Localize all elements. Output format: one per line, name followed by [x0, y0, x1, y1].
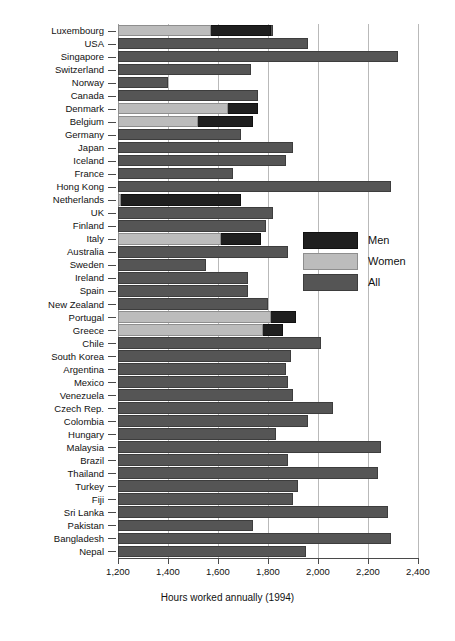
bar-row: [118, 402, 418, 415]
bar-all: [118, 337, 321, 349]
bar-all: [118, 77, 168, 89]
category-tick: [108, 538, 116, 539]
category-axis-ticks: [0, 24, 118, 558]
bar-row: [118, 193, 418, 206]
category-tick: [108, 304, 116, 305]
category-tick: [108, 226, 116, 227]
bar-row: [118, 206, 418, 219]
bar-row: [118, 337, 418, 350]
bar-row: [118, 519, 418, 532]
bar-all: [118, 64, 251, 76]
category-tick: [108, 395, 116, 396]
bar-row: [118, 24, 418, 37]
bar-all: [118, 402, 333, 414]
value-tick-label: 1,800: [248, 566, 288, 577]
value-tick: [368, 558, 369, 564]
bar-all: [118, 220, 266, 232]
bar-row: [118, 76, 418, 89]
bar-row: [118, 441, 418, 454]
legend-item-all: All: [303, 273, 443, 294]
category-tick: [108, 447, 116, 448]
category-tick: [108, 239, 116, 240]
category-tick: [108, 200, 116, 201]
bar-row: [118, 180, 418, 193]
category-tick: [108, 278, 116, 279]
bar-all: [118, 298, 268, 310]
value-tick-label: 2,000: [298, 566, 338, 577]
bar-all: [118, 259, 206, 271]
bar-row: [118, 467, 418, 480]
category-tick: [108, 369, 116, 370]
category-tick: [108, 317, 116, 318]
category-tick: [108, 70, 116, 71]
category-tick: [108, 525, 116, 526]
value-tick-label: 2,200: [348, 566, 388, 577]
bar-women: [118, 233, 221, 245]
bar-row: [118, 480, 418, 493]
category-tick: [108, 161, 116, 162]
bar-women: [118, 116, 198, 128]
bar-all: [118, 441, 381, 453]
legend-label-women: Women: [368, 253, 406, 270]
legend-swatch-men: [303, 232, 358, 249]
legend-item-men: Men: [303, 231, 443, 252]
bar-all: [118, 467, 378, 479]
bar-all: [118, 90, 258, 102]
category-tick: [108, 512, 116, 513]
bar-all: [118, 129, 241, 141]
bar-all: [118, 480, 298, 492]
category-tick: [108, 382, 116, 383]
bar-row: [118, 167, 418, 180]
bar-all: [118, 181, 391, 193]
category-tick: [108, 109, 116, 110]
value-axis-title: Hours worked annually (1994): [0, 592, 455, 603]
bar-all: [118, 285, 248, 297]
value-tick-label: 1,200: [98, 566, 138, 577]
bar-row: [118, 50, 418, 63]
bar-all: [118, 207, 273, 219]
bar-row: [118, 37, 418, 50]
bar-all: [118, 389, 293, 401]
value-tick: [118, 558, 119, 564]
category-tick: [108, 330, 116, 331]
category-tick: [108, 408, 116, 409]
category-tick: [108, 460, 116, 461]
category-tick: [108, 265, 116, 266]
bar-men: [118, 194, 241, 206]
category-tick: [108, 291, 116, 292]
bar-row: [118, 545, 418, 558]
value-tick-label: 1,600: [198, 566, 238, 577]
bar-all: [118, 350, 291, 362]
bar-row: [118, 350, 418, 363]
bar-all: [118, 493, 293, 505]
category-tick: [108, 343, 116, 344]
category-tick: [108, 83, 116, 84]
category-tick: [108, 551, 116, 552]
legend-label-all: All: [368, 274, 380, 291]
category-tick: [108, 187, 116, 188]
value-tick-label: 2,400: [398, 566, 438, 577]
legend-label-men: Men: [368, 232, 389, 249]
category-tick: [108, 148, 116, 149]
bar-all: [118, 168, 233, 180]
bar-row: [118, 376, 418, 389]
category-tick: [108, 57, 116, 58]
category-tick: [108, 31, 116, 32]
bar-women: [118, 311, 271, 323]
bar-chart: LuxembourgUSASingaporeSwitzerlandNorwayC…: [0, 0, 455, 641]
bar-women: [118, 194, 121, 206]
category-tick: [108, 252, 116, 253]
category-tick: [108, 174, 116, 175]
category-tick: [108, 96, 116, 97]
bar-all: [118, 142, 293, 154]
value-tick: [418, 558, 419, 564]
bar-row: [118, 493, 418, 506]
category-tick: [108, 135, 116, 136]
bar-all: [118, 363, 286, 375]
legend: Men Women All: [303, 231, 443, 294]
category-tick: [108, 356, 116, 357]
bar-all: [118, 246, 288, 258]
bar-women: [118, 25, 211, 37]
value-tick: [168, 558, 169, 564]
bar-row: [118, 415, 418, 428]
